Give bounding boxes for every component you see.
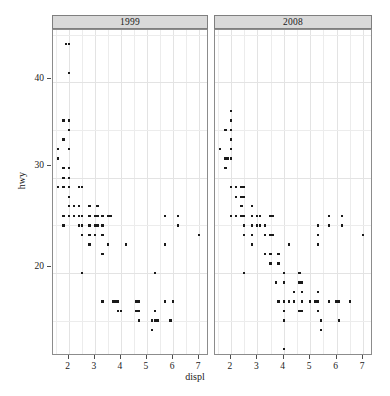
gridline-vertical (297, 30, 298, 354)
data-point (151, 329, 153, 331)
data-point (219, 148, 221, 150)
data-point (138, 319, 140, 321)
data-point (235, 196, 237, 198)
data-point (277, 253, 279, 255)
facet-strip-1999: 1999 (52, 15, 208, 29)
data-point (68, 196, 70, 198)
data-point (169, 319, 171, 321)
gridline-vertical (218, 30, 219, 354)
data-point (88, 243, 90, 245)
data-point (94, 224, 96, 226)
data-point (135, 310, 137, 312)
data-point (101, 300, 103, 302)
facet-panel-2008 (214, 29, 372, 355)
data-point (301, 300, 303, 302)
data-point (164, 215, 166, 217)
data-point (259, 224, 261, 226)
data-point (301, 281, 303, 283)
data-point (256, 224, 258, 226)
gridline-vertical (69, 30, 70, 354)
gridline-horizontal (53, 178, 207, 179)
y-tick-mark-20 (47, 266, 51, 267)
x-tick-mark (309, 355, 310, 359)
data-point (101, 215, 103, 217)
data-point (230, 129, 232, 131)
data-point (293, 300, 295, 302)
x-tick-mark (256, 355, 257, 359)
data-point (164, 300, 166, 302)
x-tick-label: 4 (276, 361, 290, 371)
gridline-vertical (199, 30, 200, 354)
data-point (317, 243, 319, 245)
data-point (317, 310, 319, 312)
data-point (251, 224, 253, 226)
data-point (283, 300, 285, 302)
facet-panel-1999 (52, 29, 208, 355)
x-tick-mark (172, 355, 173, 359)
data-point (154, 272, 156, 274)
gridline-vertical (173, 30, 174, 354)
data-point (68, 43, 70, 45)
data-point (62, 167, 64, 169)
data-point (243, 196, 245, 198)
data-point (317, 234, 319, 236)
data-point (283, 281, 285, 283)
data-point (96, 215, 98, 217)
data-point (101, 234, 103, 236)
data-point (57, 148, 59, 150)
data-point (264, 224, 266, 226)
data-point (328, 224, 330, 226)
data-point (94, 215, 96, 217)
gridline-horizontal (53, 130, 207, 131)
data-point (101, 224, 103, 226)
data-point (81, 186, 83, 188)
data-point (298, 281, 300, 283)
data-point (68, 177, 70, 179)
gridline-vertical (56, 30, 57, 354)
data-point (68, 119, 70, 121)
data-point (288, 300, 290, 302)
data-point (68, 215, 70, 217)
data-point (78, 205, 80, 207)
data-point (251, 243, 253, 245)
gridline-vertical (231, 30, 232, 354)
gridline-vertical (95, 30, 96, 354)
gridline-vertical (284, 30, 285, 354)
gridline-vertical (257, 30, 258, 354)
data-point (251, 215, 253, 217)
gridline-horizontal (53, 35, 207, 36)
y-tick-mark-30 (47, 165, 51, 166)
data-point (81, 224, 83, 226)
data-point (269, 253, 271, 255)
data-point (298, 272, 300, 274)
data-point (230, 215, 232, 217)
gridline-horizontal (215, 35, 371, 36)
data-point (117, 300, 119, 302)
data-point (338, 319, 340, 321)
gridline-horizontal (215, 273, 371, 274)
data-point (88, 215, 90, 217)
x-tick-label: 6 (165, 361, 179, 371)
gridline-vertical (134, 30, 135, 354)
data-point (240, 196, 242, 198)
data-point (230, 157, 232, 159)
data-point (138, 300, 140, 302)
data-point (88, 205, 90, 207)
x-tick-label: 7 (191, 361, 205, 371)
data-point (243, 215, 245, 217)
data-point (293, 291, 295, 293)
data-point (88, 224, 90, 226)
gridline-horizontal (53, 225, 207, 226)
data-point (240, 205, 242, 207)
data-point (230, 186, 232, 188)
data-point (224, 167, 226, 169)
data-point (81, 272, 83, 274)
data-point (81, 234, 83, 236)
gridline-vertical (271, 30, 272, 354)
x-tick-mark (94, 355, 95, 359)
data-point (109, 215, 111, 217)
data-point (317, 291, 319, 293)
x-tick-label: 5 (139, 361, 153, 371)
data-point (62, 119, 64, 121)
data-point (138, 310, 140, 312)
